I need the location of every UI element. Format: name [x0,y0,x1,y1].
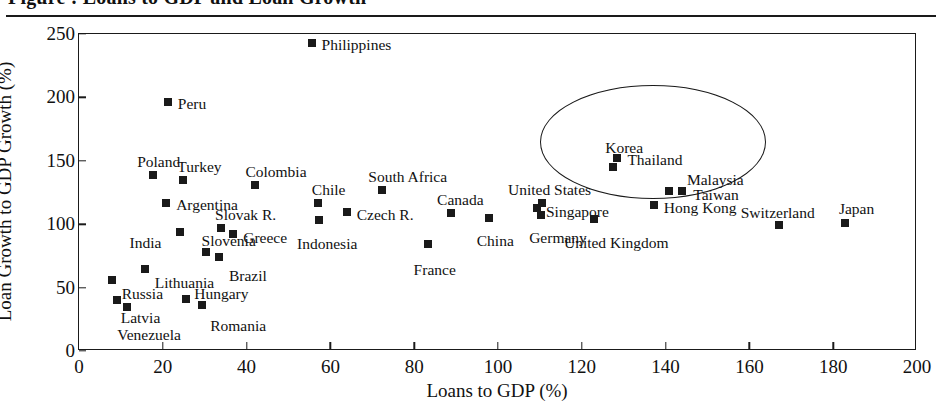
scatter-point-marker[interactable] [841,219,849,227]
scatter-point-label: Slovenia [202,233,256,249]
scatter-point-label: Singapore [546,204,609,220]
x-tick-mark [330,342,331,349]
figure-root: Figure : Loans to GDP and Loan Growth 05… [0,0,943,414]
scatter-point-label: Philippines [322,37,392,53]
scatter-point-label: Japan [839,201,874,217]
x-tick-label: 40 [237,356,256,378]
scatter-point-label: Venezuela [117,327,181,343]
scatter-point-marker[interactable] [343,208,351,216]
x-tick-label: 200 [903,356,932,378]
x-tick-mark [246,342,247,349]
x-tick-mark [581,342,582,349]
cropped-title-strip: Figure : Loans to GDP and Loan Growth [0,0,943,16]
y-axis-label: Loan Growth to GDP Growth (%) [0,33,16,350]
scatter-point-marker[interactable] [447,209,455,217]
scatter-point-label: Hong Kong [664,200,737,216]
scatter-point-marker[interactable] [202,248,210,256]
scatter-point-label: Slovak R. [215,207,276,223]
figure-title: Figure : Loans to GDP and Loan Growth [8,0,366,9]
scatter-point-marker[interactable] [485,214,493,222]
y-tick-mark [79,160,86,161]
scatter-point-marker[interactable] [609,163,617,171]
scatter-point-marker[interactable] [650,201,658,209]
scatter-point-marker[interactable] [182,295,190,303]
scatter-point-label: Brazil [229,268,267,284]
scatter-point-label: Turkey [177,159,221,175]
y-tick-mark [79,33,86,34]
scatter-point-label: United States [508,182,591,198]
scatter-point-marker[interactable] [251,181,259,189]
scatter-point-marker[interactable] [113,296,121,304]
x-tick-label: 80 [405,356,424,378]
scatter-point-label: Romania [210,318,266,334]
scatter-point-marker[interactable] [424,240,432,248]
scatter-point-label: Korea [605,140,643,156]
y-tick-label: 50 [56,277,75,299]
scatter-point-marker[interactable] [308,39,316,47]
x-tick-label: 160 [735,356,764,378]
scatter-point-label: Indonesia [297,236,357,252]
scatter-point-label: Hungary [194,286,248,302]
scatter-point-label: Poland [137,154,180,170]
scatter-point-label: China [477,233,514,249]
scatter-point-marker[interactable] [537,211,545,219]
y-tick-mark [79,287,86,288]
scatter-point-marker[interactable] [215,253,223,261]
y-tick-mark [79,223,86,224]
scatter-point-marker[interactable] [149,171,157,179]
x-tick-label: 120 [568,356,597,378]
y-tick-mark [79,350,86,351]
scatter-point-label: Latvia [121,310,161,326]
y-tick-mark [79,97,86,98]
scatter-point-label: Canada [437,192,483,208]
scatter-point-marker[interactable] [775,221,783,229]
scatter-plot-area: 0501001502002500204060801001201401601802… [78,33,916,350]
scatter-point-marker[interactable] [378,186,386,194]
x-tick-mark [832,342,833,349]
scatter-point-label: Russia [122,286,163,302]
scatter-point-marker[interactable] [590,215,598,223]
x-tick-label: 140 [651,356,680,378]
scatter-point-marker[interactable] [678,187,686,195]
scatter-point-label: France [414,262,456,278]
scatter-point-marker[interactable] [179,176,187,184]
x-tick-label: 0 [74,356,84,378]
scatter-point-label: India [130,235,162,251]
scatter-point-marker[interactable] [217,224,225,232]
scatter-point-marker[interactable] [198,301,206,309]
scatter-point-marker[interactable] [141,265,149,273]
scatter-point-label: Czech R. [357,207,414,223]
scatter-point-marker[interactable] [123,303,131,311]
scatter-point-label: United Kingdom [564,235,669,251]
x-tick-mark [497,342,498,349]
scatter-point-marker[interactable] [176,228,184,236]
scatter-point-label: Peru [178,96,206,112]
scatter-point-label: South Africa [368,169,447,185]
y-tick-label: 100 [47,213,76,235]
x-tick-label: 60 [321,356,340,378]
x-tick-mark [413,342,414,349]
scatter-point-marker[interactable] [665,187,673,195]
x-tick-label: 100 [484,356,513,378]
x-tick-mark [749,342,750,349]
scatter-point-marker[interactable] [314,199,322,207]
scatter-point-label: Switzerland [741,205,815,221]
scatter-point-marker[interactable] [315,216,323,224]
title-divider-rule [6,15,936,17]
scatter-point-label: Colombia [245,164,306,180]
x-tick-label: 20 [153,356,172,378]
scatter-point-marker[interactable] [108,276,116,284]
y-tick-label: 200 [47,86,76,108]
x-tick-mark [162,342,163,349]
x-axis-label: Loans to GDP (%) [78,380,916,402]
x-tick-mark [665,342,666,349]
scatter-point-label: Chile [312,182,346,198]
x-tick-label: 180 [819,356,848,378]
y-tick-label: 250 [47,23,76,45]
scatter-point-marker[interactable] [164,98,172,106]
scatter-point-marker[interactable] [162,199,170,207]
y-tick-label: 150 [47,150,76,172]
